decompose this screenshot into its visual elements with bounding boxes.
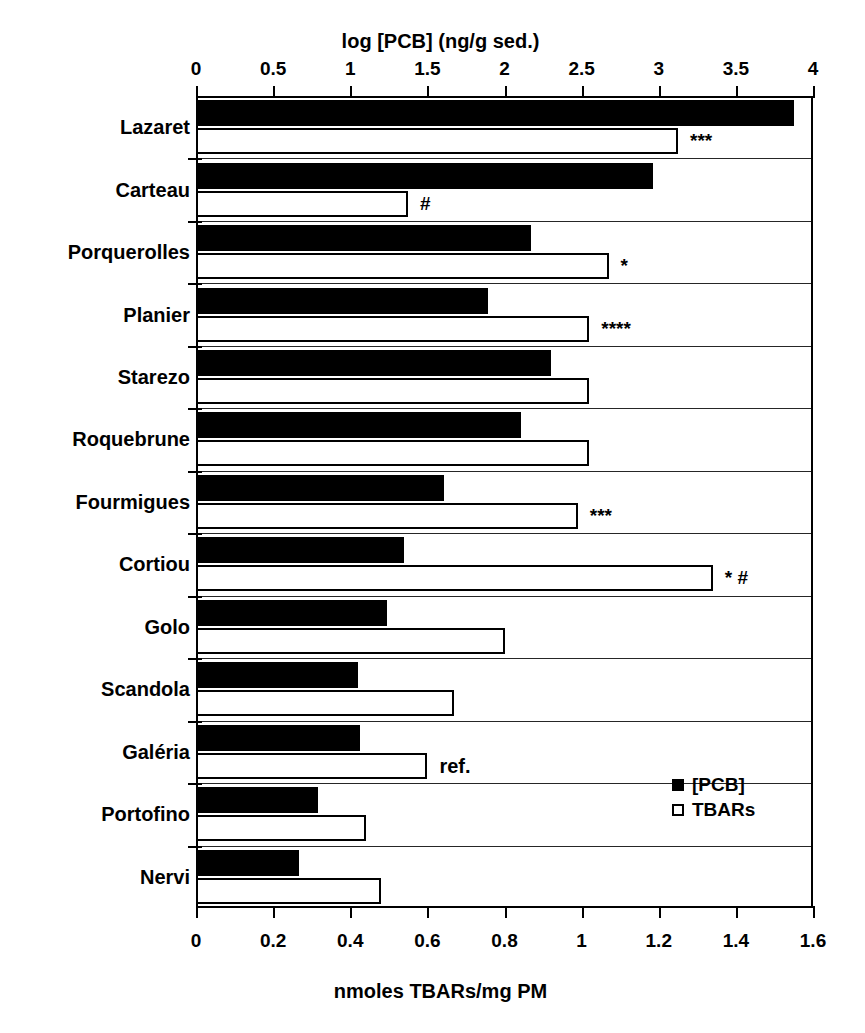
top-axis-title: log [PCB] (ng/g sed.) [0,30,865,53]
tick-mark [736,906,738,918]
bar-pcb [196,850,299,876]
significance-annotation: **** [601,318,631,340]
tick-label: 0 [191,930,202,952]
chart-figure: log [PCB] (ng/g sed.) 00.511.522.533.54 … [0,0,865,1033]
significance-annotation: # [420,193,431,215]
tick-mark [582,86,584,98]
bar-pair: * [196,221,813,283]
bar-tbars [196,128,678,154]
bar-pcb [196,100,794,126]
bar-pair: **** [196,283,813,345]
row-separator [196,471,813,472]
bar-pair [196,596,813,658]
tick-mark [813,906,815,918]
bar-row: Roquebrune [0,408,865,470]
bar-row: Porquerolles* [0,221,865,283]
bar-row: Planier**** [0,283,865,345]
bar-tbars [196,440,589,466]
bar-pcb [196,725,360,751]
tick-label: 1.4 [723,930,749,952]
category-tick-mark [188,846,202,848]
significance-annotation: *** [590,505,612,527]
bar-pcb [196,288,488,314]
row-separator [196,658,813,659]
bar-tbars [196,565,713,591]
tick-label: 0.4 [337,930,363,952]
bar-tbars [196,628,505,654]
bar-pair [196,346,813,408]
bar-pcb [196,537,404,563]
bar-tbars [196,191,408,217]
legend-item-pcb: [PCB] [672,772,755,797]
category-tick-mark [188,783,202,785]
legend-item-tbars: TBARs [672,797,755,822]
tick-label: 0.2 [260,930,286,952]
tick-mark [273,86,275,98]
category-label: Nervi [140,865,190,888]
tick-mark [196,906,198,918]
category-tick-mark [188,221,202,223]
bar-tbars [196,378,589,404]
row-separator [196,533,813,534]
category-label: Fourmigues [76,490,190,513]
bar-row: Cortiou* # [0,533,865,595]
bar-tbars [196,253,609,279]
bar-pair [196,658,813,720]
category-label: Golo [144,615,190,638]
row-separator [196,158,813,159]
category-label: Portofino [101,803,190,826]
tick-label: 3 [653,58,664,80]
bar-pcb [196,412,521,438]
category-label: Planier [123,303,190,326]
category-label: Lazaret [120,116,190,139]
top-axis-tick-labels: 00.511.522.533.54 [196,58,813,84]
category-tick-mark [188,346,202,348]
bar-pair: *** [196,96,813,158]
bar-row: Nervi [0,845,865,907]
tick-label: 3.5 [723,58,749,80]
row-separator [196,283,813,284]
tick-mark [736,86,738,98]
row-separator [196,846,813,847]
tick-label: 1 [345,58,356,80]
bar-pcb [196,662,358,688]
bar-pcb [196,600,387,626]
bar-row: Scandola [0,658,865,720]
significance-annotation: * [621,255,628,277]
category-label: Scandola [101,678,190,701]
filled-square-icon [672,779,684,791]
category-tick-mark [188,408,202,410]
category-tick-mark [188,533,202,535]
bottom-axis-title: nmoles TBARs/mg PM [0,980,865,1003]
bar-row: Starezo [0,346,865,408]
row-separator [196,346,813,347]
row-separator [196,721,813,722]
bar-tbars [196,503,578,529]
category-label: Starezo [118,366,190,389]
bar-pcb [196,225,531,251]
bar-row: Fourmigues*** [0,471,865,533]
tick-label: 0.8 [491,930,517,952]
category-label: Galéria [122,740,190,763]
category-tick-mark [188,721,202,723]
bar-tbars [196,815,366,841]
tick-mark [196,86,198,98]
category-label: Carteau [116,178,190,201]
bar-pcb [196,350,551,376]
open-square-icon [672,804,684,816]
bar-pcb [196,163,653,189]
bar-tbars [196,878,381,904]
tick-mark [582,906,584,918]
significance-annotation: *** [690,130,712,152]
category-label: Porquerolles [68,241,190,264]
bottom-axis-tick-labels: 00.20.40.60.811.21.41.6 [196,930,813,956]
bar-row: Golo [0,596,865,658]
row-separator [196,783,813,784]
tick-label: 1.5 [414,58,440,80]
tick-mark [273,906,275,918]
bar-pair: # [196,158,813,220]
bar-pcb [196,787,318,813]
bar-pair [196,845,813,907]
tick-label: 0.5 [260,58,286,80]
tick-label: 1.2 [646,930,672,952]
